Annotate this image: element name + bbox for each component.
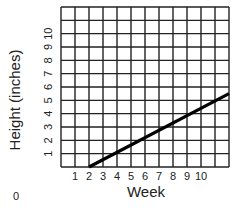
- y-tick-label: 10: [42, 28, 54, 40]
- y-tick-label: 3: [42, 124, 54, 130]
- y-tick-label: 8: [42, 57, 54, 63]
- x-tick-label: 6: [142, 170, 148, 182]
- x-tick-label: 5: [128, 170, 134, 182]
- y-tick-label: 7: [42, 71, 54, 77]
- x-tick-label: 8: [170, 170, 176, 182]
- x-tick-label: 9: [184, 170, 190, 182]
- y-tick-label: 4: [42, 111, 54, 117]
- x-tick-label: 10: [195, 170, 207, 182]
- x-tick-label: 1: [72, 170, 78, 182]
- origin-label: 0: [13, 190, 19, 202]
- y-axis-ticks: 12345678910: [42, 28, 54, 157]
- x-tick-label: 7: [156, 170, 162, 182]
- y-tick-label: 1: [42, 151, 54, 157]
- x-axis-ticks: 12345678910: [72, 170, 207, 182]
- x-tick-label: 3: [100, 170, 106, 182]
- chart-grid: [61, 7, 229, 167]
- line-chart: 12345678910 12345678910 0 Week Height (i…: [0, 0, 232, 213]
- x-tick-label: 2: [86, 170, 92, 182]
- x-tick-label: 4: [114, 170, 120, 182]
- y-tick-label: 6: [42, 84, 54, 90]
- y-tick-label: 9: [42, 44, 54, 50]
- y-tick-label: 5: [42, 97, 54, 103]
- y-tick-label: 2: [42, 137, 54, 143]
- y-axis-title: Height (inches): [6, 50, 23, 151]
- x-axis-title: Week: [127, 183, 166, 200]
